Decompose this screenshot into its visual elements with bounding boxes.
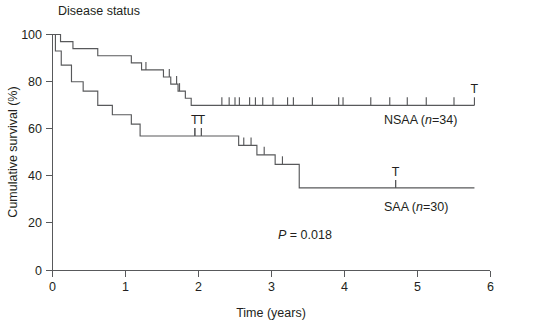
panel-title: Disease status [58,4,140,18]
terminal-t-mark-saa: T [198,113,206,127]
x-tick-label-2: 2 [195,280,202,294]
survival-curves-group: TTTT [53,35,479,188]
series-label-nsaa: NSAA (n=34) [384,113,457,127]
survival-curve-nsaa [53,35,475,106]
y-axis-tick-labels: 100 80 60 40 20 0 [21,28,42,278]
y-tick-label-100: 100 [21,28,42,42]
x-tick-label-6: 6 [487,280,494,294]
x-tick-label-4: 4 [341,280,348,294]
p-value-annotation: P = 0.018 [278,228,332,242]
x-tick-label-5: 5 [414,280,421,294]
x-axis-ticks [53,271,491,278]
terminal-t-mark-nsaa: T [471,82,479,96]
survival-curve-saa [53,35,475,188]
x-tick-label-0: 0 [49,280,56,294]
y-tick-label-60: 60 [28,122,42,136]
survival-chart-svg: Disease status 100 80 60 40 20 0 [0,0,548,331]
y-axis-ticks [46,35,53,271]
y-tick-label-80: 80 [28,75,42,89]
terminal-t-mark-saa: T [392,165,400,179]
kaplan-meier-figure: Disease status 100 80 60 40 20 0 [0,0,548,331]
y-tick-label-40: 40 [28,169,42,183]
x-tick-label-3: 3 [268,280,275,294]
y-tick-label-0: 0 [35,264,42,278]
y-tick-label-20: 20 [28,216,42,230]
x-tick-label-1: 1 [122,280,129,294]
x-axis-title: Time (years) [236,306,306,320]
y-axis-title: Cumulative survival (%) [6,86,20,217]
x-axis-tick-labels: 0 1 2 3 4 5 6 [49,280,494,294]
series-label-saa: SAA (n=30) [384,200,448,214]
